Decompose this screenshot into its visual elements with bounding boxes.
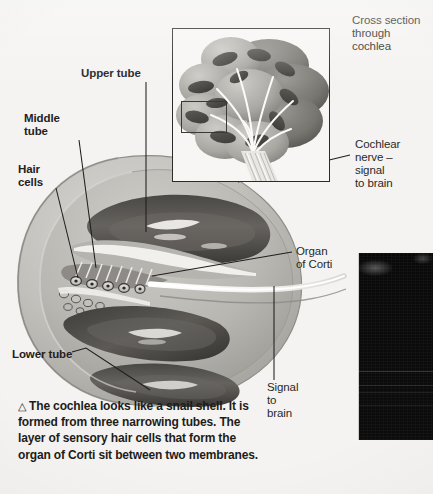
label-cochlear-nerve-line4: to brain	[355, 177, 393, 191]
label-signal-to-brain-line1: Signal	[267, 381, 298, 395]
cross-section-inset	[172, 28, 330, 182]
photo-scanline	[359, 392, 433, 393]
label-organ-of-corti-line1: Organ	[296, 245, 327, 259]
label-signal-to-brain-line2: to	[267, 394, 276, 408]
figure-caption: △ The cochlea looks like a snail shell. …	[18, 398, 268, 463]
label-middle-tube-line1: Middle	[24, 112, 60, 126]
inset-highlight-box	[181, 101, 227, 133]
label-cross-section-line2: through	[352, 27, 390, 41]
label-middle-tube-line2: tube	[24, 125, 48, 139]
label-cochlear-nerve-line2: nerve –	[355, 151, 393, 165]
photo-scanline	[359, 385, 433, 386]
label-cross-section-line1: Cross section	[352, 14, 420, 28]
caption-text: The cochlea looks like a snail shell. It…	[18, 399, 258, 462]
label-lower-tube: Lower tube	[12, 348, 72, 362]
photo-scanline	[359, 371, 433, 372]
label-signal-to-brain-line3: brain	[267, 407, 292, 421]
photo-grain	[359, 253, 433, 440]
label-organ-of-corti-line2: of Corti	[296, 258, 332, 272]
label-cross-section-line3: cochlea	[352, 40, 391, 54]
label-hair-cells-line1: Hair	[18, 163, 40, 177]
caption-triangle-icon: △	[18, 400, 26, 412]
label-cochlear-nerve-line3: signal	[355, 164, 384, 178]
photo-panel	[358, 253, 433, 440]
label-upper-tube: Upper tube	[81, 67, 141, 81]
label-cochlear-nerve-line1: Cochlear	[355, 138, 400, 152]
photo-scanline	[359, 405, 433, 406]
figure-canvas: Upper tube Middle tube Hair cells Lower …	[0, 0, 433, 494]
label-hair-cells-line2: cells	[18, 176, 43, 190]
